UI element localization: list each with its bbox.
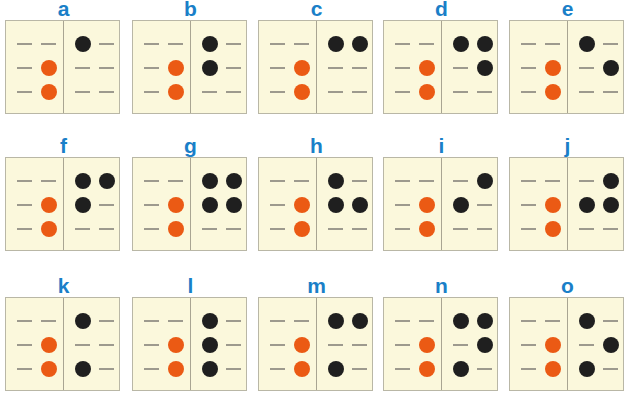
black-dot-icon	[453, 36, 469, 52]
filled-slot	[40, 361, 58, 377]
right-half	[191, 298, 248, 390]
empty-slot	[74, 221, 92, 237]
filled-slot	[476, 60, 494, 76]
left-half	[133, 298, 190, 390]
dot-card	[132, 297, 247, 391]
black-dot-icon	[75, 173, 91, 189]
filled-slot	[293, 221, 311, 237]
dash-icon	[41, 180, 56, 182]
empty-slot	[520, 313, 538, 329]
empty-slot	[602, 221, 620, 237]
empty-slot	[225, 84, 243, 100]
black-dot-icon	[453, 313, 469, 329]
black-dot-icon	[603, 197, 619, 213]
black-dot-icon	[328, 197, 344, 213]
dot-card	[383, 20, 498, 114]
dash-icon	[17, 228, 32, 230]
empty-slot	[40, 36, 58, 52]
dash-icon	[75, 344, 90, 346]
dot-card	[132, 157, 247, 251]
dash-icon	[579, 344, 594, 346]
filled-slot	[327, 313, 345, 329]
filled-slot	[418, 197, 436, 213]
black-dot-icon	[477, 173, 493, 189]
filled-slot	[327, 197, 345, 213]
black-dot-icon	[75, 36, 91, 52]
black-dot-icon	[352, 36, 368, 52]
empty-slot	[351, 60, 369, 76]
filled-slot	[201, 60, 219, 76]
dash-icon	[144, 91, 159, 93]
right-half	[568, 21, 625, 113]
filled-slot	[602, 173, 620, 189]
dash-icon	[270, 91, 285, 93]
orange-dot-icon	[41, 221, 57, 237]
empty-slot	[394, 36, 412, 52]
left-half	[259, 298, 316, 390]
dash-icon	[226, 43, 241, 45]
black-dot-icon	[579, 361, 595, 377]
black-dot-icon	[352, 197, 368, 213]
dash-icon	[453, 228, 468, 230]
black-dot-icon	[202, 361, 218, 377]
empty-slot	[143, 173, 161, 189]
dash-icon	[453, 180, 468, 182]
letter-label: b	[132, 0, 249, 18]
filled-slot	[418, 84, 436, 100]
dash-icon	[17, 204, 32, 206]
black-dot-icon	[453, 361, 469, 377]
empty-slot	[98, 361, 116, 377]
card-divider	[567, 21, 568, 113]
black-dot-icon	[477, 36, 493, 52]
orange-dot-icon	[294, 60, 310, 76]
empty-slot	[520, 197, 538, 213]
dash-icon	[17, 320, 32, 322]
card-divider	[63, 298, 64, 390]
dash-icon	[603, 368, 618, 370]
dot-card	[258, 157, 373, 251]
empty-slot	[98, 221, 116, 237]
orange-dot-icon	[41, 361, 57, 377]
dash-icon	[395, 368, 410, 370]
orange-dot-icon	[545, 361, 561, 377]
dash-icon	[226, 344, 241, 346]
orange-dot-icon	[168, 197, 184, 213]
black-dot-icon	[579, 313, 595, 329]
empty-slot	[16, 173, 34, 189]
black-dot-icon	[202, 197, 218, 213]
letter-label: j	[509, 137, 626, 155]
dash-icon	[352, 91, 367, 93]
dash-icon	[419, 43, 434, 45]
empty-slot	[269, 313, 287, 329]
empty-slot	[452, 221, 470, 237]
left-half	[510, 298, 567, 390]
orange-dot-icon	[294, 361, 310, 377]
empty-slot	[394, 173, 412, 189]
dash-icon	[328, 67, 343, 69]
filled-slot	[225, 173, 243, 189]
empty-slot	[394, 337, 412, 353]
dash-icon	[328, 228, 343, 230]
left-half	[510, 158, 567, 250]
empty-slot	[225, 60, 243, 76]
card-divider	[441, 158, 442, 250]
letter-label: h	[258, 137, 375, 155]
filled-slot	[351, 36, 369, 52]
dash-icon	[352, 228, 367, 230]
card-divider	[190, 158, 191, 250]
empty-slot	[351, 221, 369, 237]
filled-slot	[578, 36, 596, 52]
empty-slot	[476, 197, 494, 213]
dash-icon	[395, 204, 410, 206]
dash-icon	[270, 320, 285, 322]
dash-icon	[99, 368, 114, 370]
dash-icon	[17, 43, 32, 45]
letter-label: o	[509, 277, 626, 295]
dash-icon	[521, 320, 536, 322]
dash-icon	[453, 344, 468, 346]
black-dot-icon	[202, 173, 218, 189]
filled-slot	[293, 361, 311, 377]
empty-slot	[143, 60, 161, 76]
empty-slot	[351, 173, 369, 189]
dash-icon	[144, 228, 159, 230]
